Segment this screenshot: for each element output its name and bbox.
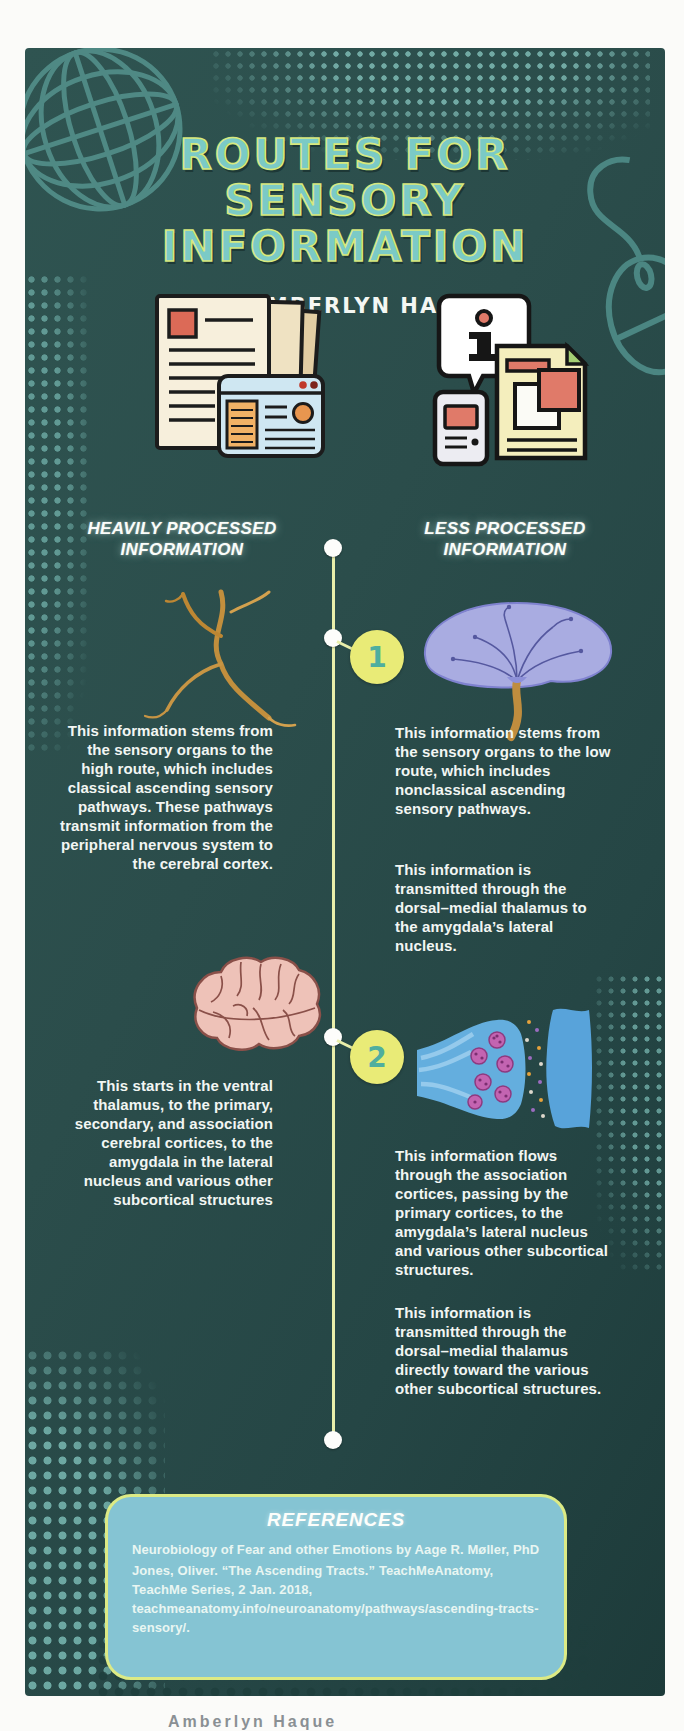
references-box: REFERENCES Neurobiology of Fear and othe… [105, 1494, 567, 1680]
halftone-pattern-left [25, 273, 91, 753]
step-2-badge: 2 [350, 1030, 404, 1084]
left-step2-paragraph: This starts in the ventral thalamus, to … [53, 1076, 273, 1209]
timeline-dot-start [324, 539, 342, 557]
right-column-label: LESS PROCESSED INFORMATION [370, 518, 640, 560]
left-column-label: HEAVILY PROCESSED INFORMATION [47, 518, 317, 560]
step-1-badge: 1 [350, 630, 404, 684]
stacked-documents-browser-icon [141, 286, 333, 468]
title-line-1: ROUTES FOR [25, 132, 665, 178]
left-step1-paragraph: This information stems from the sensory … [53, 721, 273, 873]
cropped-caption: Amberlyn Haque [168, 1713, 588, 1731]
right-step1-paragraph-b: This information is transmitted through … [395, 860, 613, 955]
reference-entry-2: Jones, Oliver. “The Ascending Tracts.” T… [132, 1561, 540, 1637]
synapse-illustration [413, 1006, 603, 1146]
info-bubble-documents-icon [423, 288, 603, 468]
title-line-3: INFORMATION [25, 224, 665, 270]
right-step1-paragraph-a: This information stems from the sensory … [395, 723, 613, 818]
reference-entry-1: Neurobiology of Fear and other Emotions … [132, 1540, 540, 1559]
right-step2-paragraph-b: This information is transmitted through … [395, 1303, 613, 1398]
right-step2-paragraph-a: This information flows through the assoc… [395, 1146, 613, 1279]
infographic-poster: ROUTES FOR SENSORY INFORMATION BY: AMBER… [25, 48, 665, 1696]
references-heading: REFERENCES [132, 1509, 540, 1531]
axon-branches-illustration [133, 586, 313, 736]
title-line-2: SENSORY [25, 178, 665, 224]
timeline-dot-end [324, 1431, 342, 1449]
brain-illustration [175, 946, 335, 1076]
poster-title: ROUTES FOR SENSORY INFORMATION [25, 132, 665, 270]
